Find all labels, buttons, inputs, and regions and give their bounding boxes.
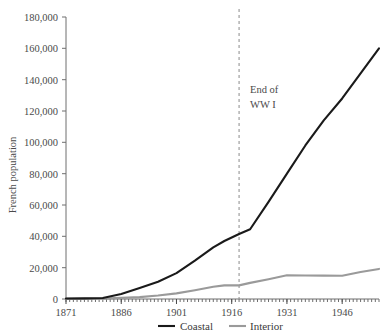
- x-tick-label: 1886: [111, 307, 132, 318]
- chart-container: 180,000 160,000 140,000 120,000 100,000 …: [0, 0, 390, 334]
- x-tick-label: 1871: [56, 307, 77, 318]
- x-tick-label: 1916: [221, 307, 242, 318]
- y-axis-ticks: [62, 17, 66, 299]
- y-tick-label: 40,000: [29, 231, 58, 242]
- end-of-ww1-label-line2: WW I: [250, 99, 276, 110]
- y-tick-label: 140,000: [24, 75, 58, 86]
- y-tick-label: 180,000: [24, 12, 58, 23]
- x-axis-tick-labels: 187118861901191619311946: [56, 307, 353, 318]
- end-of-ww1-label-line1: End of: [250, 84, 279, 95]
- line-chart: 180,000 160,000 140,000 120,000 100,000 …: [0, 0, 390, 334]
- x-tick-label: 1901: [166, 307, 187, 318]
- x-tick-label: 1931: [276, 307, 297, 318]
- y-tick-label: 100,000: [24, 137, 58, 148]
- y-tick-label: 60,000: [29, 200, 58, 211]
- x-axis-major-ticks: [66, 299, 342, 304]
- y-axis-title: French population: [7, 136, 18, 213]
- y-tick-label: 80,000: [29, 169, 58, 180]
- y-tick-label: 20,000: [29, 263, 58, 274]
- interior-line-series: [66, 269, 379, 299]
- y-tick-label: 120,000: [24, 106, 58, 117]
- y-tick-label: 160,000: [24, 43, 58, 54]
- legend-label-interior: Interior: [250, 320, 283, 332]
- y-axis-tick-labels: 180,000 160,000 140,000 120,000 100,000 …: [24, 12, 58, 305]
- x-tick-label: 1946: [332, 307, 353, 318]
- coastal-line-series: [66, 48, 379, 298]
- legend-label-coastal: Coastal: [180, 320, 213, 332]
- y-tick-label: 0: [53, 294, 58, 305]
- legend: Coastal Interior: [158, 320, 283, 332]
